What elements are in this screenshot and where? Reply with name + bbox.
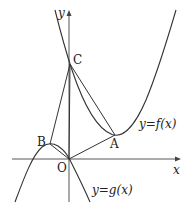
label-B: B: [37, 135, 46, 149]
segment-CA: [70, 64, 115, 135]
label-x-axis: x: [173, 163, 180, 177]
curve-g: [15, 144, 90, 202]
x-axis-arrow-icon: [175, 157, 181, 162]
segment-BC: [50, 64, 70, 144]
label-curve-g: y=g(x): [91, 183, 133, 197]
segment-OA: [69, 135, 115, 159]
label-A: A: [109, 137, 119, 151]
function-diagram: C B A O y x y=f(x) y=g(x): [0, 0, 185, 210]
segment-BO: [50, 144, 69, 159]
label-curve-f: y=f(x): [138, 117, 177, 131]
y-axis-arrow-icon: [67, 10, 72, 16]
label-y-axis: y: [57, 6, 65, 20]
label-C: C: [73, 53, 82, 67]
label-O: O: [57, 161, 67, 175]
